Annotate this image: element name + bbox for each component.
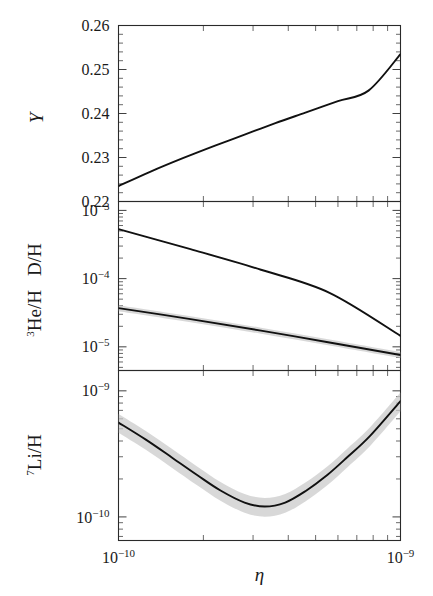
- y-tick-label: 0.23: [82, 149, 110, 166]
- svg-text:7Li/H: 7Li/H: [24, 434, 45, 476]
- y-tick-label: 0.25: [82, 61, 110, 78]
- figure-background: [0, 0, 433, 596]
- plot-canvas: 0.220.230.240.250.26 10−510−410−3 10−101…: [0, 0, 433, 596]
- bbn-abundance-figure: 0.220.230.240.250.26 10−510−410−3 10−101…: [0, 0, 433, 596]
- y-tick-label: 0.24: [82, 105, 110, 122]
- ylabel-lithium7: 7Li/H: [24, 434, 45, 476]
- xlabel-eta: η: [255, 564, 264, 585]
- y-tick-label: 0.26: [82, 17, 110, 34]
